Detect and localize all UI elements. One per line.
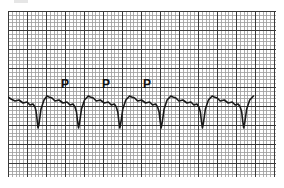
p-wave-label-2: P xyxy=(102,78,110,90)
p-wave-label-1: P xyxy=(61,78,69,90)
ecg-strip xyxy=(8,11,276,177)
p-wave-label-3: P xyxy=(143,78,151,90)
clipped-header-artifact xyxy=(14,0,28,3)
ecg-grid-and-trace xyxy=(8,11,276,177)
